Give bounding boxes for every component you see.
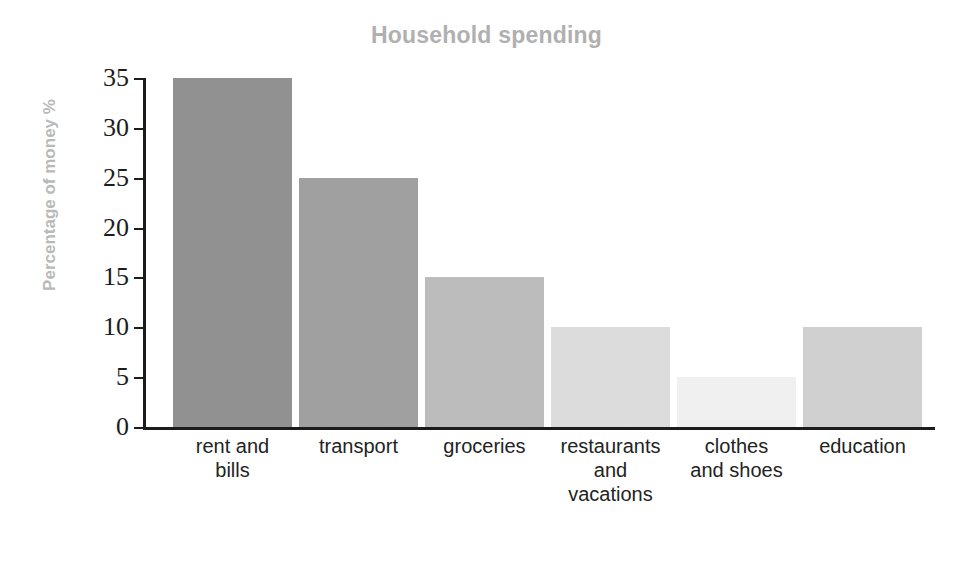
bar[interactable] xyxy=(551,327,670,427)
y-tick-mark xyxy=(134,178,143,180)
y-tick-label: 30 xyxy=(103,113,129,143)
y-tick-label: 25 xyxy=(103,163,129,193)
category-label-line: restaurants xyxy=(539,434,682,458)
bars-group xyxy=(143,78,935,427)
y-tick-mark xyxy=(134,427,143,429)
x-axis-category-labels: rent andbillstransportgroceriesrestauran… xyxy=(143,434,935,534)
category-label: rent andbills xyxy=(161,434,304,482)
category-label-line: clothes xyxy=(665,434,808,458)
category-label: education xyxy=(791,434,934,458)
category-label-line: vacations xyxy=(539,482,682,506)
y-tick-label: 5 xyxy=(116,362,129,392)
y-tick-label: 15 xyxy=(103,262,129,292)
y-tick-label: 35 xyxy=(103,63,129,93)
plot-area: 05101520253035 xyxy=(143,78,935,428)
category-label-line: and shoes xyxy=(665,458,808,482)
category-label-line: education xyxy=(791,434,934,458)
category-label: groceries xyxy=(413,434,556,458)
x-axis-line xyxy=(143,427,935,430)
y-tick-mark xyxy=(134,228,143,230)
y-tick-mark xyxy=(134,277,143,279)
category-label: clothesand shoes xyxy=(665,434,808,482)
chart-title: Household spending xyxy=(0,22,973,49)
bar[interactable] xyxy=(173,78,292,427)
category-label-line: and xyxy=(539,458,682,482)
y-tick-mark xyxy=(134,78,143,80)
bar[interactable] xyxy=(425,277,544,427)
y-axis-label: Percentage of money % xyxy=(40,85,60,305)
category-label-line: rent and xyxy=(161,434,304,458)
bar[interactable] xyxy=(299,178,418,427)
y-tick-label: 10 xyxy=(103,312,129,342)
bar-chart: Household spending Percentage of money %… xyxy=(0,0,973,583)
y-tick-mark xyxy=(134,128,143,130)
category-label-line: groceries xyxy=(413,434,556,458)
category-label: transport xyxy=(287,434,430,458)
category-label-line: bills xyxy=(161,458,304,482)
y-tick-label: 20 xyxy=(103,213,129,243)
category-label: restaurantsandvacations xyxy=(539,434,682,506)
y-tick-label: 0 xyxy=(116,412,129,442)
y-tick-mark xyxy=(134,327,143,329)
category-label-line: transport xyxy=(287,434,430,458)
bar[interactable] xyxy=(677,377,796,427)
bar[interactable] xyxy=(803,327,922,427)
y-tick-mark xyxy=(134,377,143,379)
